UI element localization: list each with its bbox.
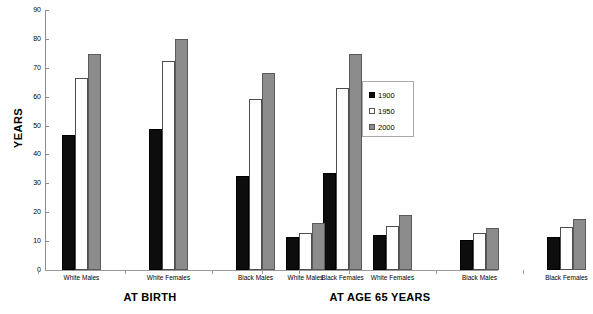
bar-1900-black-males [236, 176, 249, 270]
category-label: White Females [358, 274, 428, 281]
bar-1950-white-females [386, 226, 399, 270]
bar-1950-white-females [162, 61, 175, 270]
bar-2000-black-males [262, 73, 275, 270]
category-label: White Females [134, 274, 204, 281]
y-tick-label: 80 [19, 35, 41, 42]
bar-1900-white-males [286, 237, 299, 270]
legend-label-1950: 1950 [378, 107, 395, 116]
bar-1900-white-females [373, 235, 386, 270]
bar-1950-white-males [75, 78, 88, 270]
category-tick [125, 270, 126, 274]
bar-1900-black-females [547, 237, 560, 270]
panel-title: AT BIRTH [55, 291, 245, 303]
y-tick-label: 30 [19, 179, 41, 186]
y-tick-label: 40 [19, 150, 41, 157]
bar-1950-white-males [299, 233, 312, 270]
category-label: White Males [271, 274, 341, 281]
bar-1950-black-males [473, 233, 486, 270]
legend: 1900 1950 2000 [362, 81, 414, 137]
bar-2000-white-females [399, 215, 412, 270]
bar-2000-white-males [312, 223, 325, 270]
legend-swatch-1900-icon [369, 92, 375, 98]
bar-1950-black-males [249, 99, 262, 270]
y-tick-label: 50 [19, 122, 41, 129]
legend-swatch-2000-icon [369, 124, 375, 130]
y-tick-label: 20 [19, 208, 41, 215]
legend-label-1900: 1900 [378, 91, 395, 100]
legend-item-1950: 1950 [369, 103, 413, 119]
category-label: White Males [47, 274, 117, 281]
category-tick [523, 270, 524, 274]
category-tick [262, 270, 263, 274]
y-tick-label: 10 [19, 237, 41, 244]
bar-1900-white-males [62, 135, 75, 270]
bar-2000-black-females [573, 219, 586, 270]
category-tick [38, 270, 39, 274]
bar-1950-black-females [336, 88, 349, 270]
bar-2000-white-males [88, 54, 101, 270]
category-label: Black Males [445, 274, 515, 281]
category-tick [212, 270, 213, 274]
bar-2000-white-females [175, 39, 188, 270]
bar-1900-black-males [460, 240, 473, 270]
legend-item-1900: 1900 [369, 87, 413, 103]
y-tick-label: 70 [19, 64, 41, 71]
plot-area [46, 10, 498, 270]
bar-1900-white-females [149, 129, 162, 270]
x-axis-baseline [45, 270, 498, 271]
legend-label-2000: 2000 [378, 123, 395, 132]
bar-1950-black-females [560, 227, 573, 270]
category-tick [349, 270, 350, 274]
bar-2000-black-females [349, 54, 362, 270]
legend-item-2000: 2000 [369, 119, 413, 135]
y-tick-label: 60 [19, 93, 41, 100]
bar-2000-black-males [486, 228, 499, 270]
panel-title: AT AGE 65 YEARS [285, 291, 475, 303]
y-tick-label: 90 [19, 6, 41, 13]
category-tick [436, 270, 437, 274]
legend-swatch-1950-icon [369, 108, 375, 114]
category-label: Black Females [532, 274, 593, 281]
